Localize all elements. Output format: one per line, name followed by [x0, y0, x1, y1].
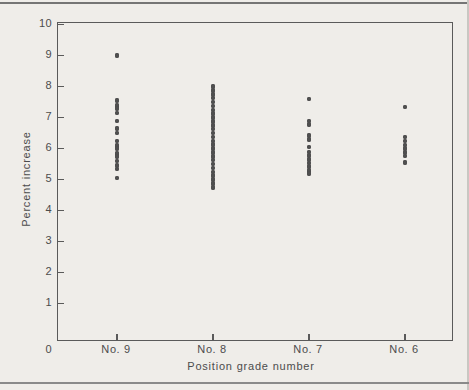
origin-label: 0: [18, 343, 52, 356]
y-tick-label: 10: [18, 17, 52, 30]
y-axis-tick: [58, 179, 64, 180]
data-point: [307, 137, 312, 142]
data-point: [115, 167, 120, 172]
y-axis-title: Percent increase: [20, 119, 32, 239]
y-axis-tick: [58, 303, 64, 304]
y-axis-tick: [58, 24, 64, 25]
y-axis-tick: [58, 86, 64, 87]
y-axis-tick: [58, 55, 64, 56]
figure-bottom-rule: [0, 382, 469, 384]
y-axis-tick: [58, 241, 64, 242]
data-point: [211, 185, 216, 190]
data-point: [307, 171, 312, 176]
y-tick-label: 1: [18, 296, 52, 309]
data-point: [403, 154, 408, 159]
x-axis-tick: [116, 334, 117, 340]
data-point: [115, 106, 120, 111]
y-axis-tick: [58, 210, 64, 211]
y-axis-tick: [58, 272, 64, 273]
figure-top-rule: [0, 2, 469, 4]
x-category-label: No. 7: [278, 343, 338, 356]
data-point: [307, 122, 312, 127]
y-axis-tick: [58, 148, 64, 149]
data-point: [307, 97, 312, 102]
data-point: [115, 53, 120, 58]
y-axis-tick: [58, 117, 64, 118]
x-category-label: No. 9: [86, 343, 146, 356]
x-axis-tick: [308, 334, 309, 340]
data-point: [115, 176, 120, 181]
x-category-label: No. 6: [374, 343, 434, 356]
y-tick-label: 2: [18, 265, 52, 278]
data-point: [115, 131, 120, 136]
data-point: [307, 145, 312, 150]
y-tick-label: 8: [18, 79, 52, 92]
y-tick-label: 9: [18, 48, 52, 61]
data-point: [403, 160, 408, 165]
data-point: [403, 105, 408, 110]
data-point: [115, 111, 120, 116]
x-axis-tick: [404, 334, 405, 340]
x-axis-tick: [212, 334, 213, 340]
data-point: [115, 119, 120, 124]
x-category-label: No. 8: [182, 343, 242, 356]
x-axis-title: Position grade number: [171, 360, 331, 372]
plot-area: [57, 22, 453, 341]
